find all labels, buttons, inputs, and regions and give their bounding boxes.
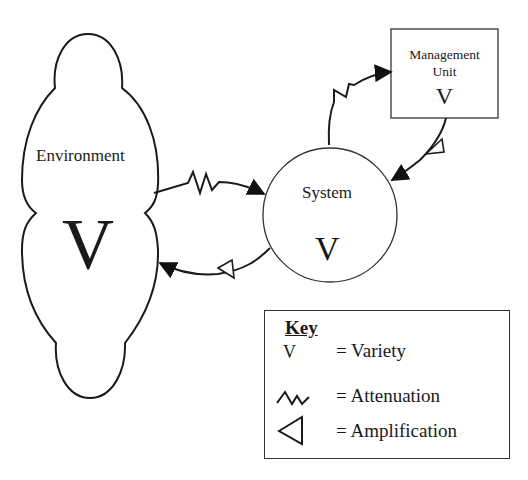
key-title: Key bbox=[285, 317, 318, 339]
key-item-attenuation: = Attenuation bbox=[336, 385, 440, 407]
key-item-amplification: = Amplification bbox=[336, 420, 457, 442]
environment-label: Environment bbox=[36, 146, 125, 166]
edge-system-to-environment bbox=[160, 248, 270, 275]
management-unit-label-line1: Management bbox=[391, 46, 498, 63]
edge-system-to-management bbox=[329, 72, 391, 145]
amplification-icon bbox=[218, 260, 234, 278]
environment-variety-symbol: V bbox=[62, 208, 114, 280]
system-label: System bbox=[302, 183, 352, 203]
key-item-variety: = Variety bbox=[336, 340, 406, 362]
variety-symbol: V bbox=[283, 342, 296, 363]
system-variety-symbol: V bbox=[315, 232, 340, 266]
management-unit-variety-symbol: V bbox=[391, 84, 498, 108]
management-unit-label: Management Unit bbox=[391, 46, 498, 80]
management-unit-label-line2: Unit bbox=[391, 63, 498, 80]
edge-environment-to-system bbox=[154, 172, 264, 194]
